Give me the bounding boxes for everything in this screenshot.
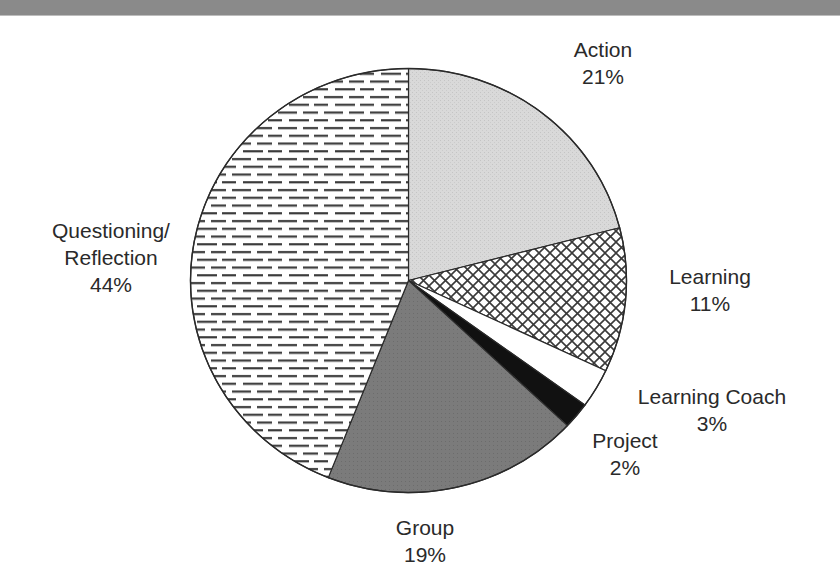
label-learning-pct: 11% (650, 290, 770, 317)
label-questioning-name-2: Reflection (26, 244, 196, 271)
label-group-name: Group (370, 514, 480, 541)
label-project-name: Project (570, 427, 680, 454)
label-learning-name: Learning (650, 263, 770, 290)
label-group-pct: 19% (370, 541, 480, 568)
label-learning-coach-name: Learning Coach (612, 383, 812, 410)
label-action: Action 21% (548, 36, 658, 90)
label-project-pct: 2% (570, 454, 680, 481)
label-action-name: Action (548, 36, 658, 63)
label-questioning-name-1: Questioning/ (26, 217, 196, 244)
label-group: Group 19% (370, 514, 480, 568)
label-action-pct: 21% (548, 63, 658, 90)
label-questioning-pct: 44% (26, 271, 196, 298)
label-learning: Learning 11% (650, 263, 770, 317)
pie-slices (191, 69, 627, 493)
label-questioning: Questioning/ Reflection 44% (26, 217, 196, 298)
label-project: Project 2% (570, 427, 680, 481)
